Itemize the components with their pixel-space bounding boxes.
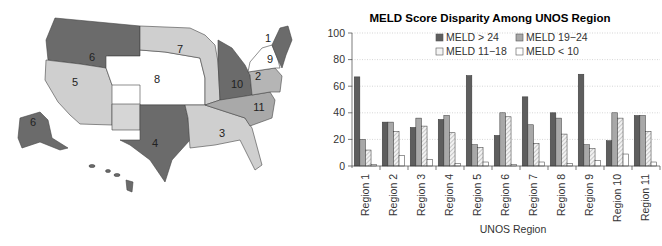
map-region-6-alaska: [18, 112, 68, 150]
bar: [645, 131, 651, 166]
bar: [623, 154, 629, 166]
legend-swatch: [436, 48, 443, 55]
x-tick-label: Region 3: [415, 174, 427, 216]
map-region-5-nm: [112, 104, 140, 130]
map-region-label: 5: [72, 76, 78, 88]
bar: [617, 118, 623, 166]
map-region-label: 8: [154, 73, 160, 85]
bar: [578, 74, 584, 166]
legend-swatch: [436, 34, 443, 41]
bar: [455, 163, 461, 166]
bar: [528, 125, 534, 166]
map-region-label: 6: [89, 51, 95, 63]
bar: [388, 122, 394, 166]
bar: [539, 162, 545, 166]
bar: [410, 127, 416, 166]
legend-label: MELD 19−24: [526, 31, 588, 43]
bar: [595, 161, 601, 166]
bar: [651, 162, 657, 166]
map-region-label: 1: [265, 32, 271, 44]
map-region-label: 6: [30, 116, 36, 128]
bar: [483, 162, 489, 166]
bar: [556, 118, 562, 166]
legend-swatch: [516, 34, 523, 41]
y-tick-label: 0: [339, 160, 345, 172]
y-tick-label: 40: [333, 106, 345, 118]
map-region-label: 11: [253, 101, 264, 113]
bar: [416, 118, 422, 166]
x-axis: Region 1Region 2Region 3Region 4Region 5…: [352, 166, 660, 222]
y-tick-label: 100: [327, 27, 345, 39]
bar: [360, 139, 366, 166]
bar: [427, 159, 433, 166]
bar: [640, 115, 646, 166]
map-hawaii: [89, 165, 133, 193]
bar: [634, 115, 640, 166]
bar: [449, 133, 455, 166]
chart-legend: MELD > 24MELD 19−24MELD 11−18MELD < 10: [436, 31, 588, 57]
map-region-5: [45, 60, 112, 125]
legend-label: MELD < 10: [526, 45, 579, 57]
y-tick-label: 80: [333, 53, 345, 65]
bar: [354, 77, 360, 166]
x-tick-label: Region 10: [611, 174, 623, 222]
map-region-label: 2: [255, 70, 261, 82]
bar: [472, 145, 478, 166]
y-tick-label: 20: [333, 133, 345, 145]
x-tick-label: Region 6: [499, 174, 511, 216]
bar: [589, 149, 595, 166]
bar: [421, 126, 427, 166]
bar: [505, 117, 511, 166]
y-tick-label: 60: [333, 80, 345, 92]
map-region-label: 10: [231, 78, 243, 90]
legend-label: MELD > 24: [446, 31, 499, 43]
x-tick-label: Region 4: [443, 174, 455, 216]
bar: [522, 97, 528, 166]
bar: [584, 145, 590, 166]
x-tick-label: Region 1: [359, 174, 371, 216]
bar: [393, 131, 399, 166]
bar: [606, 141, 612, 166]
map-region-2: [248, 68, 282, 95]
bar: [399, 155, 405, 166]
bar: [444, 115, 450, 166]
x-tick-label: Region 7: [527, 174, 539, 216]
x-tick-label: Region 5: [471, 174, 483, 216]
chart-bars: [354, 74, 656, 166]
bar: [365, 150, 371, 166]
bar: [500, 113, 506, 166]
x-tick-label: Region 9: [583, 174, 595, 216]
bar: [438, 119, 444, 166]
bar: [567, 163, 573, 166]
bar: [550, 113, 556, 166]
bar: [466, 76, 472, 166]
bar: [533, 143, 539, 166]
x-tick-label: Region 2: [387, 174, 399, 216]
bar: [494, 135, 500, 166]
x-tick-label: Region 11: [639, 174, 651, 221]
x-axis-title: UNOS Region: [480, 223, 547, 235]
bar: [612, 113, 618, 166]
x-tick-label: Region 8: [555, 174, 567, 216]
legend-swatch: [516, 48, 523, 55]
map-region-10: [218, 40, 252, 100]
map-region-label: 3: [219, 127, 225, 139]
y-axis: 020406080100: [327, 27, 352, 172]
map-region-label: 9: [267, 53, 273, 65]
map-region-label: 4: [152, 137, 158, 149]
meld-bar-chart: MELD Score Disparity Among UNOS Region 0…: [300, 0, 662, 246]
chart-title: MELD Score Disparity Among UNOS Region: [369, 12, 610, 24]
unos-region-map: 12345667891011: [0, 0, 305, 246]
bar: [477, 147, 483, 166]
bar: [382, 122, 388, 166]
legend-label: MELD 11−18: [446, 45, 507, 57]
map-region-label: 7: [177, 43, 183, 55]
bar: [561, 134, 567, 166]
